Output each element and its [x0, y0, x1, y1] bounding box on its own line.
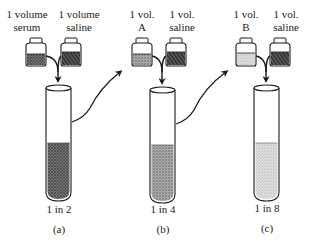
dilution-label-b: 1 in 4 [140, 203, 186, 216]
saline-bottle-icon [61, 38, 81, 66]
vol-b-label: 1 vol. B [224, 8, 268, 34]
label-line: A [120, 21, 164, 34]
panel-a [26, 38, 81, 201]
saline-label: 1 volume saline [56, 8, 102, 34]
serum-bottle-icon [26, 38, 46, 66]
label-line: saline [160, 21, 204, 34]
saline-bottle-icon [166, 38, 186, 66]
label-line: saline [56, 21, 102, 34]
dilution-label-a: 1 in 2 [36, 203, 82, 216]
saline-label: 1 vol. saline [160, 8, 204, 34]
test-tube-c [254, 85, 279, 201]
bottle-a-icon [132, 38, 152, 66]
serum-label: 1 volume serum [4, 8, 50, 34]
arrow-down-icon [162, 56, 166, 82]
panel-b [132, 38, 186, 203]
label-line: 1 vol. [160, 8, 204, 21]
label-line: 1 volume [56, 8, 102, 21]
transfer-arrow-icon [176, 72, 226, 124]
label-line: 1 vol. [264, 8, 308, 21]
dilution-label-c: 1 in 8 [244, 202, 290, 215]
label-line: B [224, 21, 268, 34]
test-tube-b [150, 87, 175, 203]
caption-b: (b) [140, 223, 186, 236]
test-tube-a [46, 85, 71, 201]
label-line: 1 vol. [224, 8, 268, 21]
label-line: serum [4, 21, 50, 34]
panel-c [236, 38, 290, 201]
label-line: 1 vol. [120, 8, 164, 21]
saline-label: 1 vol. saline [264, 8, 308, 34]
label-line: saline [264, 21, 308, 34]
caption-a: (a) [36, 223, 82, 236]
label-line: 1 volume [4, 8, 50, 21]
transfer-arrow-icon [72, 72, 120, 122]
arrow-down-icon [266, 56, 270, 80]
saline-bottle-icon [270, 38, 290, 66]
bottle-b-icon [236, 38, 256, 66]
vol-a-label: 1 vol. A [120, 8, 164, 34]
caption-c: (c) [244, 222, 290, 235]
